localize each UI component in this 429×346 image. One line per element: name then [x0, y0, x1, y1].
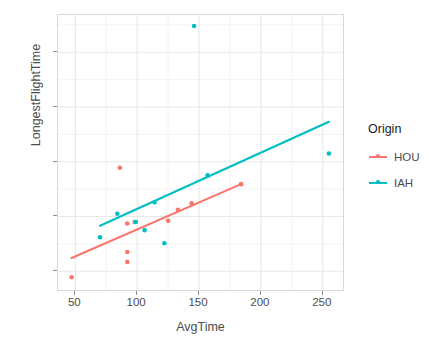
- x-tick-label: 200: [235, 296, 285, 308]
- data-point-iah: [327, 151, 332, 156]
- data-point-iah: [98, 235, 103, 240]
- data-point-iah: [152, 200, 157, 205]
- x-tick-label: 250: [297, 296, 347, 308]
- data-point-iah: [115, 211, 120, 216]
- data-point-hou: [69, 275, 74, 280]
- x-tick-mark: [260, 291, 261, 295]
- chart-root: LongestFlightTime AvgTime 10020030040050…: [0, 0, 429, 346]
- legend-label: IAH: [394, 177, 413, 189]
- x-tick-label: 100: [111, 296, 161, 308]
- x-tick-mark: [136, 291, 137, 295]
- data-point-hou: [239, 182, 244, 187]
- data-point-hou: [125, 260, 130, 265]
- data-point-iah: [162, 241, 167, 246]
- regression-line-hou: [72, 184, 241, 258]
- data-point-hou: [118, 165, 123, 170]
- legend-dot-icon: [376, 154, 380, 158]
- x-tick-mark: [74, 291, 75, 295]
- x-tick-label: 50: [49, 296, 99, 308]
- legend-items: HOUIAH: [368, 146, 429, 194]
- x-tick-mark: [322, 291, 323, 295]
- data-point-iah: [205, 173, 210, 178]
- data-point-iah: [142, 228, 147, 233]
- data-point-hou: [166, 219, 171, 224]
- legend: Origin HOUIAH: [368, 122, 429, 198]
- data-point-iah: [192, 24, 197, 29]
- plot-svg: [58, 15, 344, 291]
- legend-item-hou[interactable]: HOU: [368, 146, 429, 168]
- plot-panel: [57, 14, 344, 291]
- data-point-hou: [189, 201, 194, 206]
- legend-dot-icon: [376, 180, 380, 184]
- legend-key-icon: [368, 174, 388, 192]
- x-tick-label: 150: [173, 296, 223, 308]
- data-point-hou: [125, 250, 130, 255]
- legend-title: Origin: [368, 122, 429, 136]
- data-point-hou: [125, 221, 130, 226]
- x-axis-title: AvgTime: [57, 320, 344, 334]
- data-point-hou: [176, 208, 181, 213]
- legend-item-iah[interactable]: IAH: [368, 172, 429, 194]
- x-tick-mark: [198, 291, 199, 295]
- legend-key-icon: [368, 148, 388, 166]
- regression-line-iah: [100, 122, 329, 226]
- data-point-iah: [134, 220, 139, 225]
- legend-label: HOU: [394, 151, 420, 163]
